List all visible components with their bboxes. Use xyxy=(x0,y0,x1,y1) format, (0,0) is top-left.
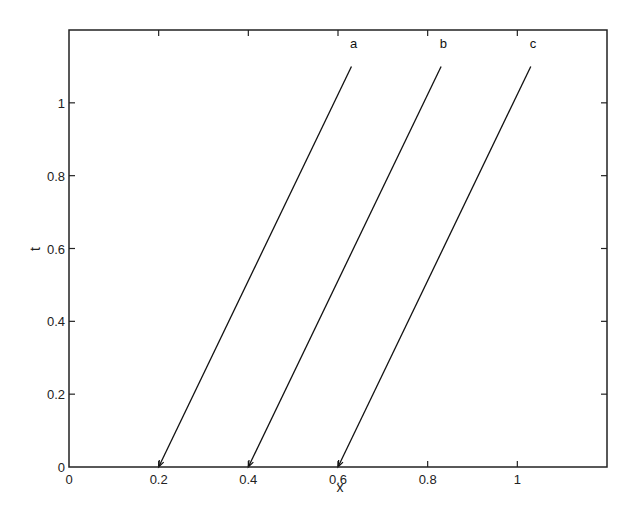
line-label-c: c xyxy=(530,36,537,51)
axis-ticks: 00.20.40.60.8100.20.40.60.81 xyxy=(47,30,607,487)
y-tick-label: 1 xyxy=(58,96,65,111)
y-tick-label: 0.4 xyxy=(47,314,65,329)
characteristic-line-b xyxy=(248,66,441,467)
x-tick-label: 0.4 xyxy=(239,472,257,487)
characteristic-line-a xyxy=(159,66,352,467)
x-tick-label: 0.2 xyxy=(150,472,168,487)
line-label-b: b xyxy=(440,36,447,51)
x-tick-label: 1 xyxy=(514,472,521,487)
characteristic-line-c xyxy=(338,66,531,467)
chart-figure: 00.20.40.60.8100.20.40.60.81 abc x t xyxy=(0,0,640,522)
y-tick-label: 0 xyxy=(58,460,65,475)
x-tick-label: 0 xyxy=(65,472,72,487)
y-axis-label: t xyxy=(27,247,43,251)
series-lines: abc xyxy=(159,36,537,467)
x-tick-label: 0.8 xyxy=(419,472,437,487)
y-tick-label: 0.6 xyxy=(47,242,65,257)
x-axis-label: x xyxy=(337,479,344,495)
y-tick-label: 0.2 xyxy=(47,387,65,402)
y-tick-label: 0.8 xyxy=(47,169,65,184)
line-label-a: a xyxy=(350,36,358,51)
